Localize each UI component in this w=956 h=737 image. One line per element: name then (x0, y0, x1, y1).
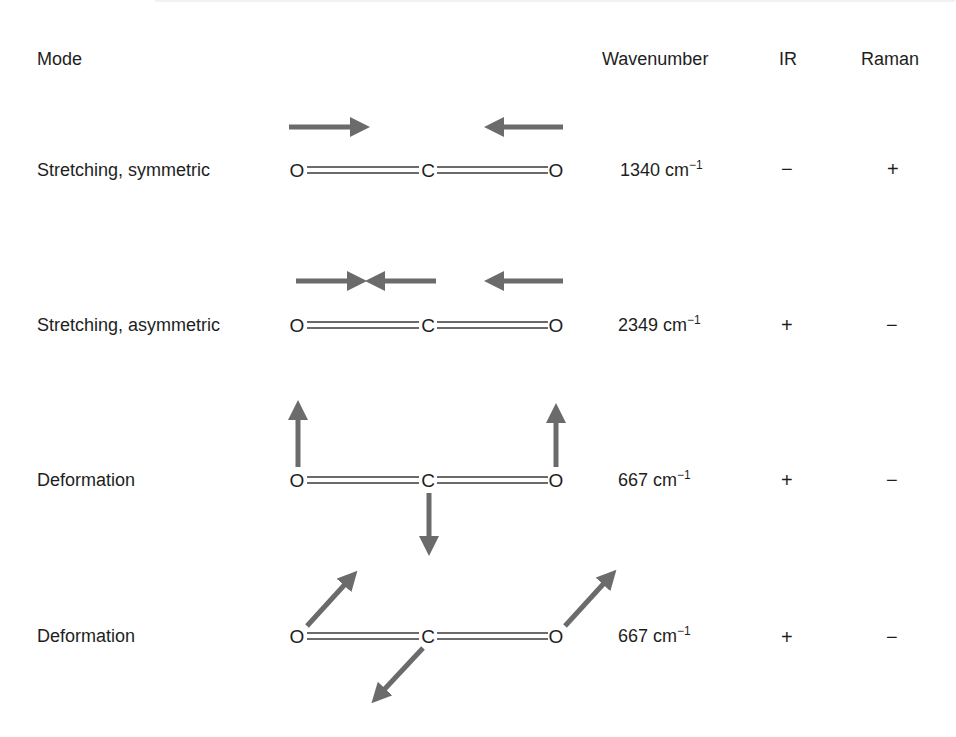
oxygen-atom: O (549, 626, 564, 647)
molecule-asymmetric-stretch: O C O (290, 281, 564, 336)
carbon-atom: C (421, 470, 435, 491)
molecule-deformation-outofplane: O C O (290, 580, 607, 693)
carbon-atom: C (421, 626, 435, 647)
carbon-atom: C (421, 315, 435, 336)
arrow-up-right-icon (565, 580, 607, 626)
double-bond (437, 633, 548, 639)
oxygen-atom: O (290, 470, 305, 491)
carbon-atom: C (421, 160, 435, 181)
double-bond (307, 322, 419, 328)
double-bond (307, 477, 419, 483)
oxygen-atom: O (549, 160, 564, 181)
arrow-up-right-icon (307, 581, 348, 626)
co2-vibration-diagrams: O C O O C O O C O (0, 0, 956, 737)
double-bond (437, 322, 548, 328)
oxygen-atom: O (549, 315, 564, 336)
double-bond (437, 477, 548, 483)
arrow-down-left-icon (381, 648, 423, 693)
molecule-deformation-inplane: O C O (290, 414, 564, 542)
oxygen-atom: O (290, 160, 305, 181)
double-bond (307, 633, 419, 639)
oxygen-atom: O (290, 315, 305, 336)
oxygen-atom: O (549, 470, 564, 491)
molecule-symmetric-stretch: O C O (289, 127, 563, 181)
double-bond (437, 167, 548, 173)
double-bond (307, 167, 419, 173)
oxygen-atom: O (290, 626, 305, 647)
